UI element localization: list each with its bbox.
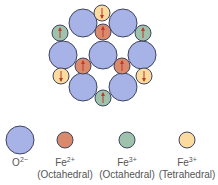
oxygen-ion: [89, 41, 117, 69]
oxygen-ion: [69, 73, 97, 101]
legend-label-fe2_oct: Fe2+(Octahedral): [37, 157, 93, 181]
oxygen-ion: [128, 41, 156, 69]
legend-swatch-o2: [6, 126, 34, 154]
oxygen-ion: [49, 41, 77, 69]
legend-swatch-fe3_tet: [179, 132, 195, 148]
oxygen-ion: [69, 9, 97, 37]
oxygen-ion: [109, 73, 137, 101]
legend-swatch-fe2_oct: [57, 132, 73, 148]
oxygen-ion: [109, 9, 137, 37]
legend-label-fe3_tet: Fe3+(Tetrahedral): [159, 157, 216, 181]
legend-swatch-fe3_oct: [119, 132, 135, 148]
legend-label-o2: O2−: [12, 157, 28, 169]
legend-label-fe3_oct: Fe3+(Octahedral): [99, 157, 155, 181]
